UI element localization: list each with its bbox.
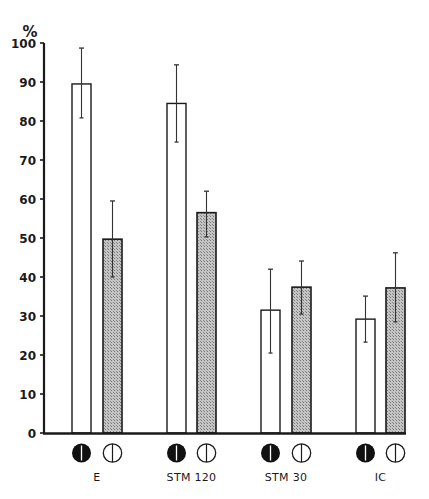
bars [72, 48, 405, 433]
gray-bar-1 [197, 213, 216, 433]
bar-chart: % 0102030405060708090100 ESTM 120STM 30I… [0, 0, 429, 499]
y-tick-label: 20 [19, 349, 36, 363]
filled-circle-icon [261, 444, 280, 463]
category-labels: ESTM 120STM 30IC [72, 444, 405, 485]
y-tick-label: 60 [19, 193, 36, 207]
open-circle-icon [292, 444, 310, 462]
white-bar-0 [72, 84, 91, 433]
y-tick-label: 90 [19, 76, 36, 90]
open-circle-icon [386, 444, 404, 462]
filled-circle-icon [72, 444, 91, 463]
open-circle-icon [103, 444, 121, 462]
y-tick-label: 30 [19, 310, 36, 324]
y-tick-label: 100 [11, 37, 36, 51]
category-label: E [93, 471, 100, 484]
category-label: IC [375, 471, 387, 484]
filled-circle-icon [356, 444, 375, 463]
y-tick-label: 70 [19, 154, 36, 168]
y-tick-label: 50 [19, 232, 36, 246]
category-label: STM 30 [265, 471, 308, 484]
y-tick-label: 10 [19, 388, 36, 402]
y-axis: 0102030405060708090100 [11, 37, 44, 441]
y-tick-label: 0 [28, 427, 36, 441]
y-tick-label: 80 [19, 115, 36, 129]
filled-circle-icon [167, 444, 186, 463]
open-circle-icon [197, 444, 215, 462]
category-label: STM 120 [167, 471, 217, 484]
y-tick-label: 40 [19, 271, 36, 285]
white-bar-1 [167, 103, 186, 433]
